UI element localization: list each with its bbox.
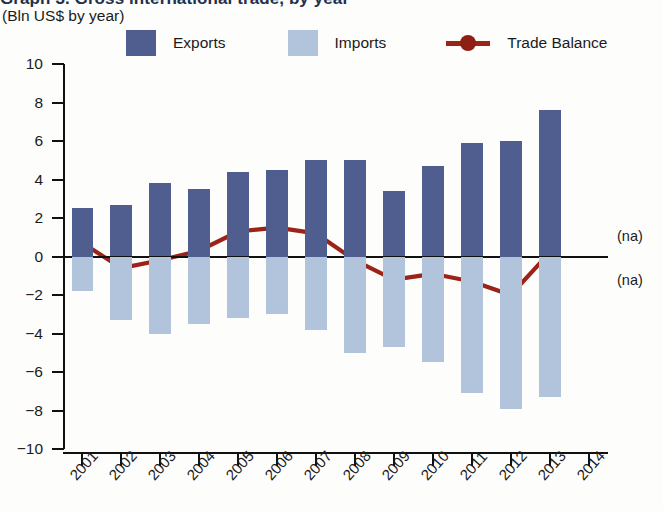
bar-imports-2005[interactable] xyxy=(227,257,249,319)
zero-line xyxy=(63,256,608,258)
y-tick--2 xyxy=(52,294,64,296)
legend-exports-label: Exports xyxy=(173,34,226,52)
y-tick-label--6: −6 xyxy=(3,364,43,379)
bar-imports-2001[interactable] xyxy=(72,257,94,292)
bar-imports-2010[interactable] xyxy=(422,257,444,363)
bar-exports-2004[interactable] xyxy=(188,189,210,256)
legend-trade-balance-label: Trade Balance xyxy=(507,34,607,52)
x-axis-line xyxy=(63,452,608,454)
bar-imports-2013[interactable] xyxy=(539,257,561,398)
y-tick-8 xyxy=(52,102,64,104)
bar-exports-2008[interactable] xyxy=(344,160,366,256)
legend-exports[interactable]: Exports xyxy=(126,30,226,56)
chart-subtitle: (Bln US$ by year) xyxy=(2,7,124,25)
legend-exports-swatch xyxy=(126,30,156,56)
bar-imports-2012[interactable] xyxy=(500,257,522,409)
bar-exports-2010[interactable] xyxy=(422,166,444,256)
bar-imports-2002[interactable] xyxy=(110,257,132,321)
bar-imports-2008[interactable] xyxy=(344,257,366,353)
y-tick-label-2: 2 xyxy=(3,210,43,225)
bar-exports-2007[interactable] xyxy=(305,160,327,256)
bar-exports-2009[interactable] xyxy=(383,191,405,256)
bar-exports-2012[interactable] xyxy=(500,141,522,257)
legend-imports-swatch xyxy=(288,30,318,56)
bar-imports-2011[interactable] xyxy=(461,257,483,394)
plot-area xyxy=(63,64,608,449)
bar-exports-2003[interactable] xyxy=(149,183,171,256)
y-tick-label-8: 8 xyxy=(3,95,43,110)
trade-chart: Graph 3. Gross international trade, by y… xyxy=(0,0,663,511)
bar-imports-2007[interactable] xyxy=(305,257,327,330)
legend-trade-balance-marker xyxy=(446,30,490,56)
y-tick-label-6: 6 xyxy=(3,133,43,148)
y-tick-0 xyxy=(52,256,64,258)
bar-exports-2001[interactable] xyxy=(72,208,94,256)
y-tick-label--4: −4 xyxy=(3,326,43,341)
na-label-below: (na) xyxy=(617,272,643,288)
legend-line-dot xyxy=(460,35,476,51)
y-tick--4 xyxy=(52,333,64,335)
y-tick-4 xyxy=(52,179,64,181)
y-tick-label--2: −2 xyxy=(3,287,43,302)
chart-legend: Exports Imports Trade Balance xyxy=(126,30,608,56)
legend-trade-balance[interactable]: Trade Balance xyxy=(446,30,607,56)
y-tick-label--8: −8 xyxy=(3,403,43,418)
y-tick-label-0: 0 xyxy=(3,249,43,264)
na-label-above: (na) xyxy=(617,228,643,244)
y-tick-10 xyxy=(52,63,64,65)
legend-imports[interactable]: Imports xyxy=(288,30,387,56)
bar-exports-2005[interactable] xyxy=(227,172,249,257)
bar-imports-2009[interactable] xyxy=(383,257,405,347)
y-tick-label-4: 4 xyxy=(3,172,43,187)
bar-imports-2004[interactable] xyxy=(188,257,210,324)
bar-exports-2013[interactable] xyxy=(539,110,561,256)
bar-exports-2002[interactable] xyxy=(110,205,132,257)
y-tick--8 xyxy=(52,410,64,412)
bar-imports-2006[interactable] xyxy=(266,257,288,315)
bar-imports-2003[interactable] xyxy=(149,257,171,334)
y-tick--6 xyxy=(52,371,64,373)
y-tick-label--10: −10 xyxy=(3,441,43,456)
y-tick-6 xyxy=(52,140,64,142)
bar-exports-2011[interactable] xyxy=(461,143,483,257)
bar-exports-2006[interactable] xyxy=(266,170,288,257)
y-tick--10 xyxy=(52,448,64,450)
y-tick-label-10: 10 xyxy=(3,56,43,71)
legend-imports-label: Imports xyxy=(335,34,387,52)
y-tick-2 xyxy=(52,217,64,219)
